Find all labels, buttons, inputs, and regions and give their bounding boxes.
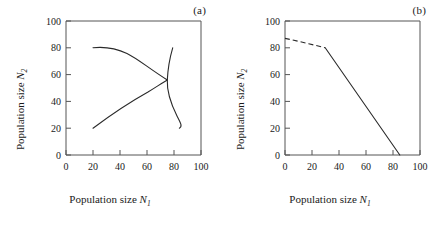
- panel-b-xtick-0: 0: [283, 161, 288, 172]
- panel-b-curves: [285, 38, 400, 155]
- panel-a-ytick-80: 80: [51, 42, 61, 53]
- curve-solid-steep: [325, 48, 400, 155]
- panel-b-x-axis-title: Population size N1: [220, 193, 440, 208]
- panel-a-y-axis-title: Population size N2: [14, 69, 29, 150]
- panel-b-x-axis-symbol: N: [360, 193, 367, 205]
- panel-b-y-axis-symbol: N: [234, 72, 246, 79]
- panel-a-ytick-40: 40: [51, 96, 61, 107]
- panel-a: (a) 0 20 40 60 80 100: [0, 0, 220, 225]
- figure-container: (a) 0 20 40 60 80 100: [0, 0, 440, 225]
- panel-b-y-ticks: 0 20 40 60 80 100: [265, 16, 290, 161]
- panel-a-y-axis-symbol: N: [14, 72, 26, 79]
- panel-a-plot: 0 20 40 60 80 100 0 20 40 60 80 100: [0, 0, 220, 225]
- panel-b-ytick-80: 80: [270, 42, 280, 53]
- panel-a-y-axis-subscript: 2: [20, 69, 29, 73]
- panel-a-xtick-20: 20: [88, 161, 98, 172]
- panel-b-x-axis-subscript: 1: [367, 199, 371, 208]
- panel-a-xtick-80: 80: [169, 161, 179, 172]
- panel-a-x-axis-subscript: 1: [147, 199, 151, 208]
- curve-right-sigmoid: [167, 48, 181, 128]
- panel-a-ytick-0: 0: [56, 150, 61, 161]
- panel-b-y-axis-text: Population size: [234, 82, 246, 150]
- panel-b-ytick-20: 20: [270, 123, 280, 134]
- panel-a-xtick-0: 0: [64, 161, 69, 172]
- panel-b-y-axis-subscript: 2: [240, 69, 249, 73]
- curve-dashed-shallow: [285, 38, 325, 47]
- panel-b-ytick-60: 60: [270, 69, 280, 80]
- panel-a-x-axis-symbol: N: [140, 193, 147, 205]
- panel-a-x-axis-title: Population size N1: [0, 193, 220, 208]
- panel-a-ytick-100: 100: [46, 16, 61, 27]
- panel-b-plot: 0 20 40 60 80 100 0 20 40 60 80 100: [220, 0, 440, 225]
- panel-a-xtick-100: 100: [194, 161, 209, 172]
- panel-a-axes: [66, 21, 201, 155]
- panel-a-xtick-60: 60: [142, 161, 152, 172]
- panel-b-axes: [285, 21, 420, 155]
- panel-a-ytick-60: 60: [51, 69, 61, 80]
- panel-b-ytick-40: 40: [270, 96, 280, 107]
- panel-b-ytick-100: 100: [265, 16, 280, 27]
- panel-a-x-axis-text: Population size: [69, 193, 137, 205]
- panel-b-x-axis-text: Population size: [289, 193, 357, 205]
- panel-a-xtick-40: 40: [115, 161, 125, 172]
- panel-b-y-axis-title: Population size N2: [234, 69, 249, 150]
- panel-b-xtick-100: 100: [413, 161, 428, 172]
- panel-b-xtick-80: 80: [388, 161, 398, 172]
- panel-b-x-ticks: 0 20 40 60 80 100: [283, 150, 428, 172]
- panel-b-xtick-20: 20: [307, 161, 317, 172]
- panel-b: (b) 0 20 40 60 80 100: [220, 0, 440, 225]
- panel-a-y-axis-text: Population size: [14, 82, 26, 150]
- panel-a-curves: [93, 47, 181, 128]
- panel-b-xtick-40: 40: [334, 161, 344, 172]
- panel-b-xtick-60: 60: [361, 161, 371, 172]
- curve-upper-arc: [93, 47, 167, 80]
- panel-b-ytick-0: 0: [275, 150, 280, 161]
- curve-lower-rising: [93, 80, 167, 128]
- panel-a-x-ticks: 0 20 40 60 80 100: [64, 150, 209, 172]
- panel-a-ytick-20: 20: [51, 123, 61, 134]
- panel-a-y-ticks: 0 20 40 60 80 100: [46, 16, 71, 161]
